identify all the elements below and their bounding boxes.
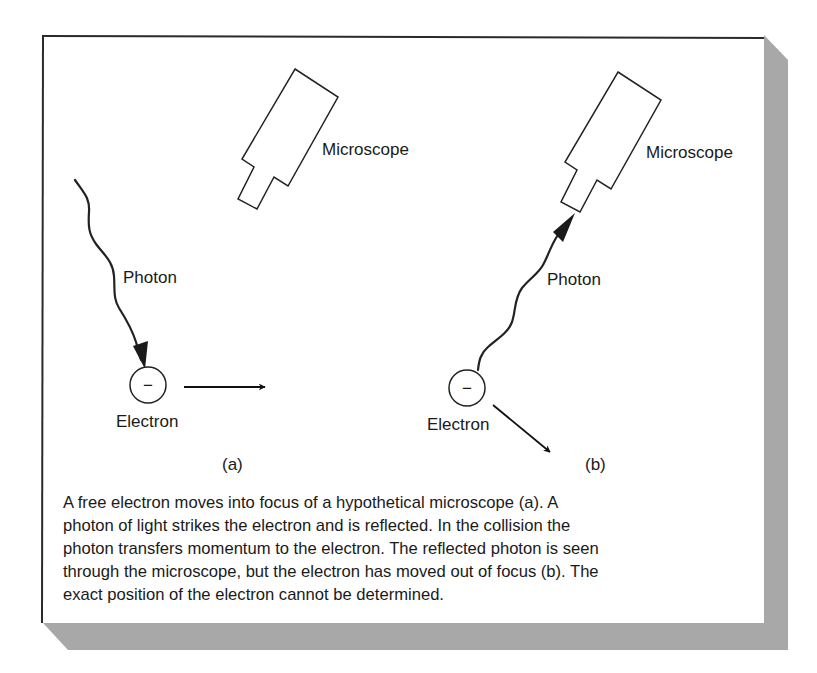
caption-line: photon transfers momentum to the electro…	[63, 539, 599, 558]
photon-label: Photon	[123, 268, 177, 287]
panel-label-a: (a)	[222, 455, 243, 474]
panel-label-b: (b)	[585, 455, 606, 474]
uncertainty-principle-figure: Microscope Photon − Electron (a) Microsc…	[0, 0, 817, 673]
caption-line: A free electron moves into focus of a hy…	[63, 493, 559, 512]
electron-label: Electron	[116, 412, 178, 431]
microscope-label: Microscope	[646, 143, 733, 162]
electron-charge: −	[143, 376, 153, 395]
electron-charge: −	[462, 379, 472, 398]
caption-line: through the microscope, but the electron…	[63, 562, 599, 581]
caption-line: photon of light strikes the electron and…	[63, 516, 570, 535]
photon-label: Photon	[547, 270, 601, 289]
microscope-label: Microscope	[322, 140, 409, 159]
caption-line: exact position of the electron cannot be…	[63, 585, 444, 604]
electron-label: Electron	[427, 415, 489, 434]
frame-border-left	[42, 35, 43, 623]
